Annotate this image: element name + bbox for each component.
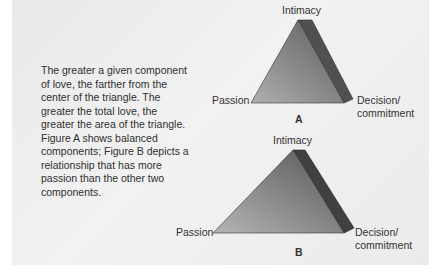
- vertex-label-decision-b-line2: commitment: [355, 239, 412, 252]
- vertex-label-decision-a-line2: commitment: [357, 107, 414, 120]
- vertex-label-passion-b: Passion: [176, 226, 213, 239]
- triangle-b: [213, 150, 354, 233]
- figure-label-b: B: [295, 246, 303, 258]
- triangle-a: [251, 20, 353, 103]
- vertex-label-intimacy-b: Intimacy: [273, 134, 312, 147]
- vertex-label-decision-b: Decision/ commitment: [355, 226, 412, 252]
- vertex-label-decision-b-line1: Decision/: [355, 226, 412, 239]
- vertex-label-passion-a: Passion: [212, 94, 249, 107]
- figure-label-a: A: [295, 113, 303, 125]
- vertex-label-decision-a-line1: Decision/: [357, 94, 414, 107]
- vertex-label-intimacy-a: Intimacy: [282, 4, 321, 17]
- vertex-label-decision-a: Decision/ commitment: [357, 94, 414, 120]
